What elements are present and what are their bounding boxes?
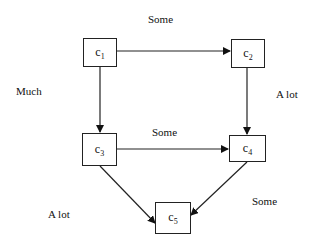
node-c5-label: c5 (168, 210, 177, 226)
node-c2-label: c2 (243, 46, 252, 62)
node-c1: c1 (83, 38, 117, 67)
node-c3: c3 (82, 133, 117, 166)
node-c4-label: c4 (243, 141, 252, 157)
node-c3-label: c3 (95, 142, 104, 158)
edge-c3-c5 (100, 166, 155, 223)
edge-label-c1-c3: Much (16, 85, 42, 97)
node-c5: c5 (155, 202, 191, 234)
node-c4: c4 (229, 135, 266, 162)
edge-label-c3-c4: Some (152, 126, 177, 138)
node-c1-label: c1 (95, 45, 104, 61)
edge-label-c2-c4: A lot (276, 88, 298, 100)
edge-label-c1-c2: Some (148, 13, 173, 25)
edge-label-c4-c5: Some (252, 195, 277, 207)
node-c2: c2 (231, 39, 265, 68)
edge-c4-c5 (191, 162, 247, 215)
edge-label-c3-c5: A lot (48, 208, 70, 220)
